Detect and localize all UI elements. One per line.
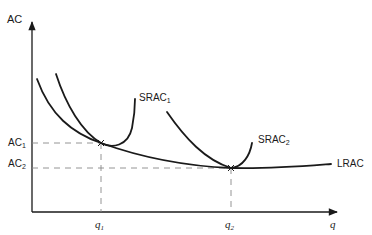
srac1-curve	[56, 74, 135, 146]
srac1-label: SRAC1	[139, 93, 171, 104]
cost-curves-diagram	[0, 0, 372, 235]
x-axis-label: q	[330, 219, 336, 230]
ac2-label: AC2	[8, 159, 26, 170]
srac2-label: SRAC2	[258, 135, 290, 146]
srac2-curve	[167, 112, 252, 168]
lrac-label: LRAC	[337, 159, 364, 169]
ac1-label: AC1	[8, 138, 26, 149]
y-axis-label: AC	[7, 14, 22, 25]
q1-label: q1	[95, 219, 104, 232]
q2-label: q2	[225, 219, 234, 232]
